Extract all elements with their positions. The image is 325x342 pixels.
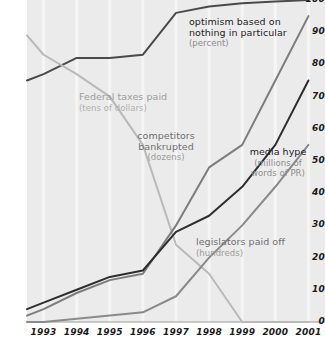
x-tick-2000: 2000 [258,327,292,337]
x-tick-1994: 1994 [60,327,94,337]
x-tick-2001: 2001 [291,327,325,337]
annotation-competitors-line2: bankrupted [124,142,208,153]
y-tick-100: 100 [301,0,325,4]
x-tick-1998: 1998 [192,327,226,337]
annotation-legislators-unit: (hundreds) [196,248,285,259]
annotation-media-hype: media hype (millions of words of PR) [236,147,320,179]
x-tick-1996: 1996 [126,327,160,337]
annotation-optimism-unit: (percent) [189,38,287,49]
annotation-federal-taxes-name: Federal taxes paid [79,92,167,103]
y-tick-10: 10 [301,285,325,294]
y-tick-20: 20 [301,253,325,262]
annotation-competitors-line1: competitors [124,131,208,142]
y-tick-90: 90 [301,27,325,36]
annotation-legislators-name: legislators paid off [196,237,285,248]
annotation-competitors-unit: (dozens) [124,152,208,163]
x-tick-1999: 1999 [225,327,259,337]
y-tick-70: 70 [301,92,325,101]
annotation-federal-taxes: Federal taxes paid (tens of dollars) [79,92,167,113]
annotation-competitors: competitors bankrupted (dozens) [124,131,208,163]
annotation-optimism-line1: optimism based on [189,17,287,28]
y-tick-80: 80 [301,59,325,68]
y-tick-40: 40 [301,188,325,197]
chart-container: 0102030405060708090100 19931994199519961… [0,0,325,342]
x-tick-1995: 1995 [93,327,127,337]
y-tick-0: 0 [301,317,325,326]
x-tick-1993: 1993 [27,327,61,337]
annotation-legislators: legislators paid off (hundreds) [196,237,285,258]
x-tick-1997: 1997 [159,327,193,337]
annotation-media-hype-name: media hype [236,147,320,158]
y-tick-30: 30 [301,220,325,229]
y-tick-60: 60 [301,124,325,133]
annotation-optimism-line2: nothing in particular [189,28,287,39]
annotation-media-hype-unit2: words of PR) [236,168,320,179]
annotation-media-hype-unit1: (millions of [236,158,320,169]
annotation-optimism: optimism based on nothing in particular … [189,17,287,49]
annotation-federal-taxes-unit: (tens of dollars) [79,103,167,114]
